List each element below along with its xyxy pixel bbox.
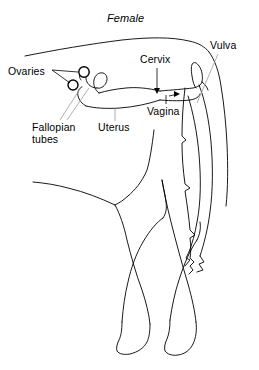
label-fallopian-tubes-line1: Fallopian [32, 121, 76, 133]
vagina-arrowhead [174, 91, 180, 97]
label-vagina: Vagina [147, 106, 180, 118]
leader-ovaries-lower [52, 70, 70, 83]
label-uterus: Uterus [98, 122, 130, 134]
reproductive-tract [78, 63, 208, 109]
leader-vulva [197, 54, 218, 103]
label-ovaries: Ovaries [8, 66, 45, 78]
label-fallopian-tubes: Fallopian tubes [32, 122, 76, 145]
label-cervix: Cervix [140, 54, 170, 66]
label-fallopian-tubes-line2: tubes [32, 133, 58, 145]
horse-body-outline [25, 38, 228, 355]
figure-title: Female [107, 13, 144, 25]
leader-ovaries-upper [52, 70, 78, 72]
figure-canvas: Female Ovaries Fallopian tubes Uterus Ce… [0, 0, 259, 370]
label-vulva: Vulva [210, 40, 236, 52]
anatomy-diagram [0, 0, 259, 370]
